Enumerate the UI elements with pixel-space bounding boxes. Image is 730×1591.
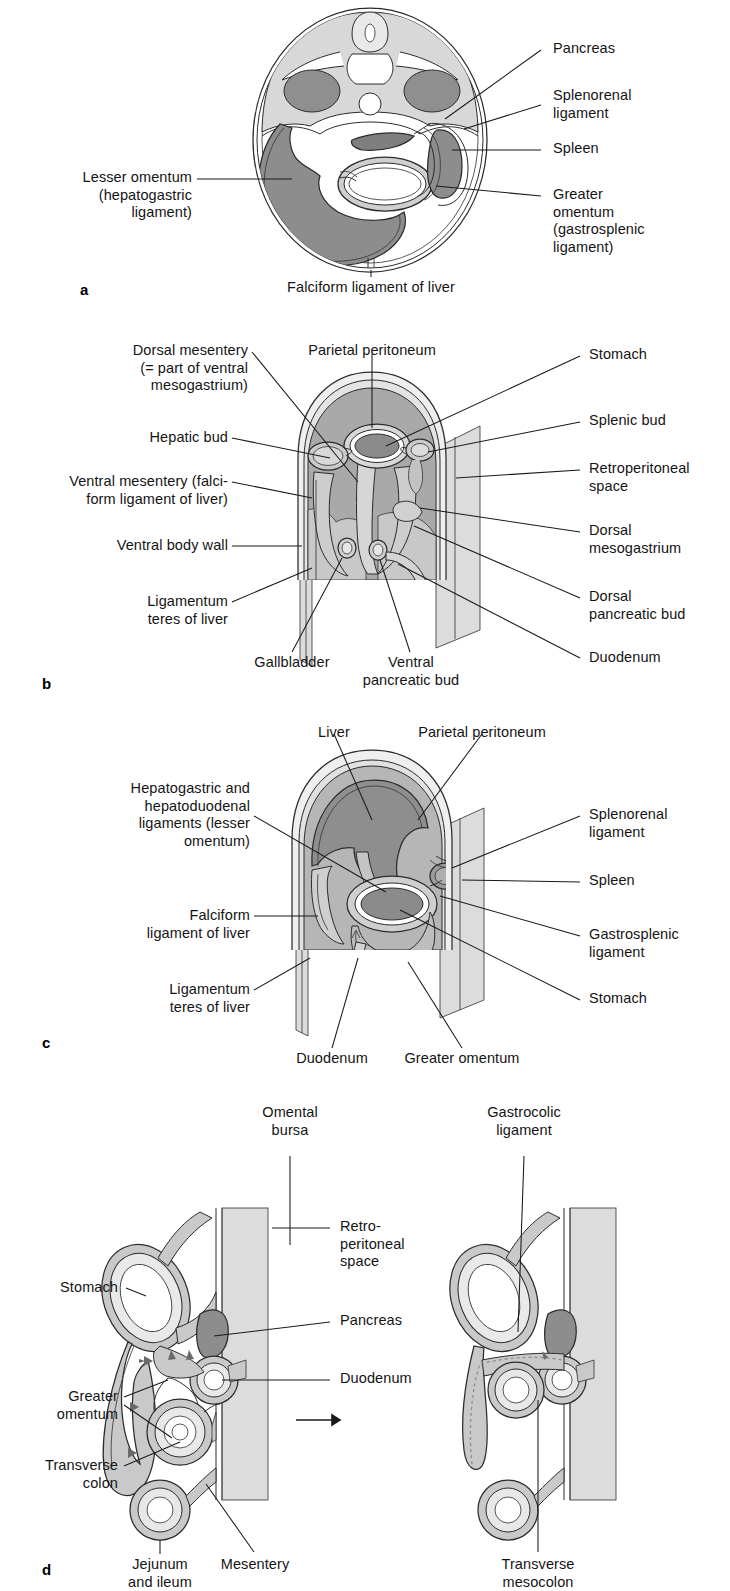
label-a-spleen: Spleen <box>553 140 723 158</box>
label-b-dorsal-mesentery: Dorsal mesentery (= part of ventral meso… <box>10 342 248 395</box>
label-b-splenic-bud: Splenic bud <box>589 412 729 430</box>
label-d-pancreas: Pancreas <box>340 1312 460 1330</box>
label-a-splenorenal: Splenorenal ligament <box>553 87 723 122</box>
label-c-falciform: Falciform ligament of liver <box>10 907 250 942</box>
label-c-ligamentum-teres: Ligamentum teres of liver <box>10 981 250 1016</box>
label-b-duodenum: Duodenum <box>589 649 730 667</box>
panel-letter-a: a <box>80 281 88 298</box>
label-a-falciform: Falciform ligament of liver <box>196 279 546 297</box>
transition-arrow-icon <box>296 1415 340 1425</box>
label-d-gastrocolic: Gastrocolic ligament <box>454 1104 594 1139</box>
leader-b-duodenum <box>398 564 580 658</box>
label-c-gastrosplenic: Gastrosplenic ligament <box>589 926 730 961</box>
label-d-duodenum: Duodenum <box>340 1370 460 1388</box>
label-b-stomach: Stomach <box>589 346 729 364</box>
label-a-lesser-omentum: Lesser omentum (hepatogastric ligament) <box>10 169 192 222</box>
label-d-omental-bursa: Omental bursa <box>220 1104 360 1139</box>
leader-c-duodenum <box>332 958 358 1048</box>
label-b-ligamentum-teres: Ligamentum teres of liver <box>10 593 228 628</box>
label-a-greater-omentum: Greater omentum (gastrosplenic ligament) <box>553 186 728 256</box>
leader-c-stomach <box>400 910 580 1000</box>
label-c-parietal-peritoneum: Parietal peritoneum <box>392 724 572 742</box>
label-b-ventral-pancreatic-bud: Ventral pancreatic bud <box>338 654 484 689</box>
label-c-spleen: Spleen <box>589 872 730 890</box>
label-c-liver: Liver <box>264 724 404 742</box>
panel-letter-c: c <box>42 1034 50 1051</box>
label-b-ventral-mesentery: Ventral mesentery (falci- form ligament … <box>4 473 228 508</box>
label-d-greater-omentum: Greater omentum <box>10 1388 118 1423</box>
label-b-ventral-body-wall: Ventral body wall <box>10 537 228 555</box>
label-d-transverse-colon: Transverse colon <box>10 1457 118 1492</box>
panel-d: Omental bursa Gastrocolic ligament Stoma… <box>0 1060 730 1569</box>
label-b-dorsal-pancreatic-bud: Dorsal pancreatic bud <box>589 588 730 623</box>
label-b-hepatic-bud: Hepatic bud <box>10 429 228 447</box>
label-a-pancreas: Pancreas <box>553 40 723 58</box>
panel-b: Dorsal mesentery (= part of ventral meso… <box>0 330 730 700</box>
label-c-hepatogastric: Hepatogastric and hepatoduodenal ligamen… <box>10 780 250 850</box>
label-d-retroperitoneal: Retro- peritoneal space <box>340 1218 460 1271</box>
label-b-parietal-peritoneum: Parietal peritoneum <box>262 342 482 360</box>
panel-c: Liver Parietal peritoneum Hepatogastric … <box>0 700 730 1060</box>
label-c-stomach: Stomach <box>589 990 730 1008</box>
leader-b-splenic-bud <box>428 422 580 452</box>
figure-caption <box>18 1552 718 1569</box>
panel-d-right-diagram <box>434 1208 616 1540</box>
panel-letter-b: b <box>42 675 51 692</box>
label-b-retroperitoneal: Retroperitoneal space <box>589 460 730 495</box>
label-d-stomach: Stomach <box>10 1279 118 1297</box>
label-b-dorsal-mesogastrium: Dorsal mesogastrium <box>589 522 730 557</box>
label-c-splenorenal: Splenorenal ligament <box>589 806 730 841</box>
panel-a: Pancreas Splenorenal ligament Spleen Gre… <box>0 0 730 330</box>
